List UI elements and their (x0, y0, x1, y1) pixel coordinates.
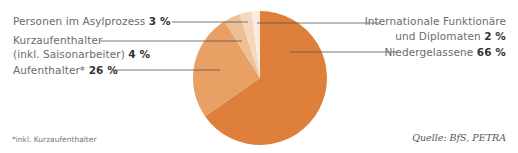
label-niedergelassene: Niedergelassene 66 % (384, 46, 506, 59)
source-note: Quelle: BfS, PETRA (412, 132, 506, 143)
label-intl: und Diplomaten 2 % (395, 30, 506, 43)
label-asyl: Personen im Asylprozess 3 % (13, 15, 171, 28)
footnote: *inkl. Kurzaufenthalter (12, 135, 96, 144)
label-aufenthalter: Aufenthalter* 26 % (13, 64, 118, 77)
label-intl-line1: Internationale Funktionäre (365, 15, 506, 28)
label-kurz: (inkl. Saisonarbeiter) 4 % (13, 48, 150, 61)
pie-slices (193, 11, 327, 145)
label-kurz-line1: Kurzaufenthalter (13, 34, 102, 47)
